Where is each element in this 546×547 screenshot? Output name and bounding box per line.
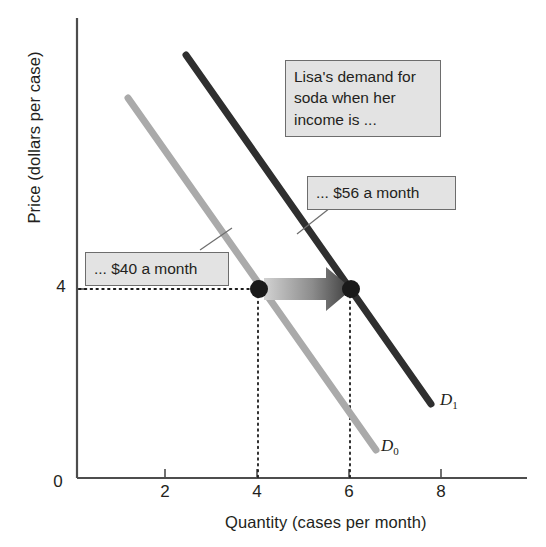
curve-label-d1: D1 [440,390,458,411]
chart-canvas [0,0,546,547]
x-tick-label-4: 4 [244,482,270,502]
x-axis-title: Quantity (cases per month) [225,513,427,532]
curve-label-d0-sub: 0 [393,445,399,457]
callout-income-40: ... $40 a month [85,252,229,286]
point-d1-marker [342,280,360,298]
curve-label-d1-sub: 1 [452,399,458,411]
curve-label-d0-letter: D [381,436,393,455]
curve-label-d0: D0 [381,436,399,457]
demand-curve-figure: Price (dollars per case) Quantity (cases… [0,0,546,547]
y-axis-title: Price (dollars per case) [25,28,44,248]
y-tick-label-4: 4 [48,277,74,297]
callout-main-description: Lisa's demand for soda when her income i… [285,60,441,137]
x-tick-label-2: 2 [152,482,178,502]
x-tick-label-8: 8 [428,482,454,502]
x-tick-label-6: 6 [336,482,362,502]
callout-income-56: ... $56 a month [307,176,456,210]
origin-label: 0 [45,472,71,492]
point-d0-marker [250,280,268,298]
curve-label-d1-letter: D [440,390,452,409]
